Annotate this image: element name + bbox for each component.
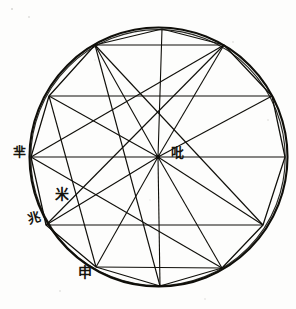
geometric-diagram [0, 0, 296, 309]
spoke-right-lower [158, 157, 263, 225]
figure-canvas: 吡 芈 米 兆 申 [0, 0, 296, 309]
spoke-lower-left [96, 157, 158, 267]
annotation-bottom: 申 [78, 265, 92, 279]
center-point [156, 155, 160, 159]
spoke-left-upper [49, 96, 158, 157]
center-marker-group [156, 155, 160, 159]
spoke-bottom [158, 157, 160, 286]
annotation-mid-left: 米 [55, 187, 69, 201]
chord-lower-left-to-lower-right [96, 267, 222, 268]
annotation-west: 芈 [13, 145, 26, 158]
spoke-lower-right [158, 157, 222, 268]
spoke-top [158, 29, 162, 157]
annotation-center: 吡 [171, 146, 184, 159]
chord-upper-left-to-right-lower [95, 45, 263, 225]
chord-left-to-lower-right [31, 157, 222, 268]
